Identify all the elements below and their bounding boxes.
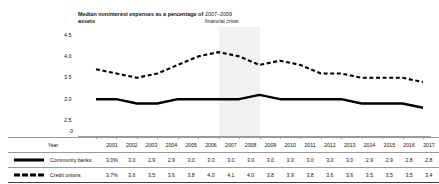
series-lines	[78, 27, 431, 137]
cell-value: 2.9	[379, 153, 399, 168]
legend-label: Community banks	[50, 157, 92, 163]
series-line-credit-unions	[96, 52, 423, 82]
cell-value: 2.9	[142, 153, 162, 168]
chart-figure: Median noninterest expenses as a percent…	[0, 0, 439, 183]
cell-value: 3.6	[320, 168, 340, 183]
cell-value: 3.8	[181, 168, 201, 183]
year-col-2005: 2005	[181, 138, 201, 153]
cell-value: 3.6	[122, 168, 142, 183]
crisis-annotation-line2: financial crisis	[205, 18, 285, 25]
table-body: Community banks3.0%3.02.92.93.03.03.03.0…	[8, 153, 439, 184]
cell-value: 3.0	[181, 153, 201, 168]
year-col-2012: 2012	[320, 138, 340, 153]
year-col-2001: 2001	[102, 138, 122, 153]
cell-value: 3.5	[379, 168, 399, 183]
cell-value: 2.9	[161, 153, 181, 168]
crisis-annotation: 2007–2009 financial crisis	[205, 11, 285, 25]
year-col-2013: 2013	[340, 138, 360, 153]
cell-value: 3.8	[300, 168, 320, 183]
legend-swatch-dashed	[14, 174, 44, 177]
year-col-2004: 2004	[161, 138, 181, 153]
cell-value: 3.0	[201, 153, 221, 168]
cell-value: 3.0	[122, 153, 142, 168]
year-col-2009: 2009	[261, 138, 281, 153]
cell-value: 3.8	[261, 168, 281, 183]
chart-axis-title: Median noninterest expenses as a percent…	[78, 11, 208, 25]
table-row: Community banks3.0%3.02.92.93.03.03.03.0…	[8, 153, 439, 168]
cell-value: 3.6	[161, 168, 181, 183]
year-col-2014: 2014	[360, 138, 380, 153]
year-header-label: Year	[8, 138, 102, 153]
data-table: Year 20012002200320042005200620072008200…	[8, 137, 439, 183]
cell-value: 4.0	[201, 168, 221, 183]
cell-value: 3.7%	[102, 168, 122, 183]
legend-item-credit-unions: Credit unions	[8, 168, 102, 183]
cell-value: 3.0	[340, 153, 360, 168]
crisis-annotation-line1: 2007–2009	[205, 11, 285, 18]
year-col-2007: 2007	[221, 138, 241, 153]
table-bottom-rule	[8, 183, 439, 184]
year-col-2017: 2017	[419, 138, 439, 153]
table-header-row: Year 20012002200320042005200620072008200…	[8, 138, 439, 153]
year-col-2016: 2016	[399, 138, 419, 153]
cell-value: 3.0%	[102, 153, 122, 168]
legend-item-community-banks: Community banks	[8, 153, 102, 168]
legend-label: Credit unions	[50, 172, 81, 178]
cell-value: 3.9	[280, 168, 300, 183]
cell-value: 3.0	[221, 153, 241, 168]
cell-value: 3.4	[419, 168, 439, 183]
cell-value: 4.1	[221, 168, 241, 183]
y-tick-4-5: 4.5	[64, 32, 72, 38]
cell-value: 2.8	[419, 153, 439, 168]
cell-value: 3.0	[320, 153, 340, 168]
legend-swatch-solid	[14, 159, 44, 162]
data-table-wrapper: Year 20012002200320042005200620072008200…	[8, 137, 435, 183]
cell-value: 2.8	[399, 153, 419, 168]
year-col-2008: 2008	[241, 138, 261, 153]
year-col-2015: 2015	[379, 138, 399, 153]
cell-value: 3.0	[280, 153, 300, 168]
plot-area: 4.54.03.53.02.50	[78, 27, 431, 137]
year-col-2011: 2011	[300, 138, 320, 153]
cell-value: 3.0	[261, 153, 281, 168]
y-tick-2-5: 2.5	[64, 117, 72, 123]
cell-value: 3.5	[399, 168, 419, 183]
y-tick-4: 4.0	[64, 53, 72, 59]
cell-value: 3.6	[340, 168, 360, 183]
cell-value: 3.0	[300, 153, 320, 168]
y-tick-0: 0	[70, 128, 73, 134]
cell-value: 2.9	[360, 153, 380, 168]
table-row: Credit unions3.7%3.63.53.63.84.04.14.03.…	[8, 168, 439, 183]
cell-value: 3.0	[241, 153, 261, 168]
cell-value: 3.5	[360, 168, 380, 183]
y-tick-3-5: 3.5	[64, 74, 72, 80]
table-bottom-rule-cell	[8, 183, 439, 184]
year-col-2002: 2002	[122, 138, 142, 153]
y-tick-3: 3.0	[64, 96, 72, 102]
year-col-2010: 2010	[280, 138, 300, 153]
series-line-community-banks	[96, 95, 423, 108]
year-col-2003: 2003	[142, 138, 162, 153]
cell-value: 3.5	[142, 168, 162, 183]
year-col-2006: 2006	[201, 138, 221, 153]
cell-value: 4.0	[241, 168, 261, 183]
